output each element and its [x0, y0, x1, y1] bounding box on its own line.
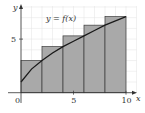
- x-axis-label: x: [136, 94, 141, 103]
- x-tick-label: 10: [121, 96, 131, 105]
- curve-label: y = f(x): [45, 14, 76, 23]
- x-tick-label: 0: [15, 96, 20, 105]
- y-axis-arrow-icon: [19, 4, 23, 9]
- bar: [105, 17, 126, 93]
- bar: [21, 61, 42, 93]
- y-tick-label: 5: [11, 35, 16, 44]
- y-axis-label: y: [12, 3, 18, 12]
- x-tick-label: 5: [71, 96, 76, 105]
- bar: [84, 25, 105, 93]
- riemann-sum-chart: 05105 y x y = f(x): [0, 0, 145, 113]
